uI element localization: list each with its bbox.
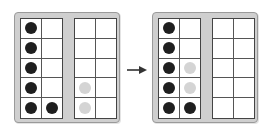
ten-frame-cell [75, 78, 96, 98]
ten-frame-cell [213, 19, 234, 39]
counter-dot [184, 102, 196, 114]
counter-dot [25, 82, 37, 94]
counter-dot [163, 82, 175, 94]
moved-counter-dot [79, 102, 91, 114]
ten-frame-cell [42, 59, 63, 79]
ten-frame-cell [42, 98, 63, 118]
ten-frame-cell [159, 39, 180, 59]
ten-frame-cell [180, 39, 201, 59]
ten-frame-cell [159, 98, 180, 118]
counter-dot [163, 42, 175, 54]
ten-frame-cell [96, 59, 117, 79]
ten-frame-cell [159, 19, 180, 39]
ten-frame-cell [213, 98, 234, 118]
ten-frame-cell [42, 19, 63, 39]
ten-frame-cell [234, 59, 255, 79]
counter-dot [25, 22, 37, 34]
ten-frame-cell [75, 19, 96, 39]
moved-counter-dot [184, 82, 196, 94]
ten-frame-cell [234, 78, 255, 98]
ten-frame-cell [21, 98, 42, 118]
ten-frame-cell [96, 39, 117, 59]
before-frame-holder [14, 12, 120, 123]
ten-frame-cell [21, 78, 42, 98]
ten-frame-cell [234, 98, 255, 118]
ten-frame-cell [180, 19, 201, 39]
after-ten-frame-left [158, 18, 201, 119]
ten-frame-cell [75, 98, 96, 118]
before-ten-frame-left [20, 18, 63, 119]
ten-frame-cell [96, 19, 117, 39]
ten-frame-cell [159, 59, 180, 79]
right-arrow-icon [127, 66, 147, 74]
ten-frame-cell [213, 78, 234, 98]
ten-frame-cell [213, 59, 234, 79]
ten-frame-cell [75, 59, 96, 79]
ten-frame-cell [213, 39, 234, 59]
before-ten-frame-right [74, 18, 117, 119]
ten-frame-cell [42, 78, 63, 98]
ten-frame-cell [180, 59, 201, 79]
counter-dot [25, 62, 37, 74]
counter-dot [46, 102, 58, 114]
ten-frame-cell [21, 59, 42, 79]
ten-frame-cell [234, 19, 255, 39]
counter-dot [163, 22, 175, 34]
ten-frame-cell [96, 98, 117, 118]
after-frame-holder [152, 12, 258, 123]
counter-dot [163, 62, 175, 74]
ten-frame-cell [21, 39, 42, 59]
counter-dot [25, 42, 37, 54]
after-ten-frame-right [212, 18, 255, 119]
ten-frame-cell [42, 39, 63, 59]
ten-frame-cell [21, 19, 42, 39]
ten-frame-cell [159, 78, 180, 98]
ten-frame-cell [180, 78, 201, 98]
moved-counter-dot [184, 62, 196, 74]
ten-frame-cell [96, 78, 117, 98]
ten-frame-cell [234, 39, 255, 59]
ten-frame-cell [180, 98, 201, 118]
moved-counter-dot [79, 82, 91, 94]
ten-frame-cell [75, 39, 96, 59]
counter-dot [25, 102, 37, 114]
counter-dot [163, 102, 175, 114]
